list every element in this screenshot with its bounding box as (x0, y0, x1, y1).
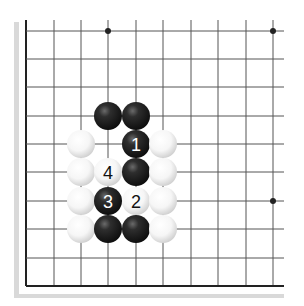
move-number-label: 2 (131, 192, 141, 212)
white-stone-disc (149, 130, 177, 158)
go-board-diagram: 1432 (0, 0, 304, 306)
white-stone-disc (149, 215, 177, 243)
star-point (105, 28, 111, 34)
black-stone (122, 158, 150, 186)
black-stone-disc (94, 102, 122, 130)
move-number-label: 4 (103, 163, 113, 183)
white-stone (149, 187, 177, 215)
white-stone (67, 215, 95, 243)
go-board: 1432 (0, 0, 304, 306)
white-stone-disc (67, 187, 95, 215)
white-stone-disc (67, 158, 95, 186)
white-stone (149, 130, 177, 158)
black-stone-move-3: 3 (94, 187, 122, 215)
white-stone (67, 158, 95, 186)
white-stone (67, 187, 95, 215)
move-number-label: 3 (103, 192, 113, 212)
white-stone-move-4: 4 (94, 158, 122, 186)
black-stone-disc (122, 158, 150, 186)
black-stone (122, 215, 150, 243)
white-stone (149, 158, 177, 186)
shadow-bottom (14, 294, 284, 298)
black-stone (94, 102, 122, 130)
black-stone (94, 215, 122, 243)
black-stone-disc (94, 215, 122, 243)
white-stone-disc (67, 130, 95, 158)
white-stone-move-2: 2 (122, 187, 150, 215)
white-stone-disc (67, 215, 95, 243)
white-stone (67, 130, 95, 158)
black-stone-disc (122, 102, 150, 130)
white-stone-disc (149, 187, 177, 215)
move-number-label: 1 (131, 135, 141, 155)
white-stone-disc (149, 158, 177, 186)
star-point (270, 28, 276, 34)
black-stone-disc (122, 215, 150, 243)
black-stone (122, 102, 150, 130)
white-stone (149, 215, 177, 243)
star-point (270, 198, 276, 204)
black-stone-move-1: 1 (122, 130, 150, 158)
shadow-left (14, 22, 19, 296)
